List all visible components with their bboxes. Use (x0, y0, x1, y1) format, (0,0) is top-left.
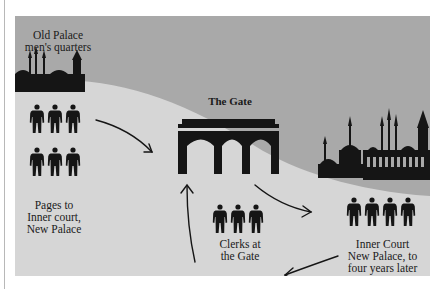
new-palace-skyline-icon (318, 108, 430, 180)
gate-label: The Gate (195, 95, 265, 107)
diagram-frame: Old Palace men's quarters The Gate Pages… (15, 16, 430, 276)
inner-court-label: Inner Court New Palace, to four years la… (335, 238, 430, 274)
old-palace-label: Old Palace men's quarters (23, 29, 93, 53)
clerks-label: Clerks at the Gate (215, 238, 265, 262)
page-edge-line (4, 0, 5, 289)
pages-label: Pages to Inner court, New Palace (19, 199, 89, 235)
diagram-canvas (15, 16, 430, 276)
